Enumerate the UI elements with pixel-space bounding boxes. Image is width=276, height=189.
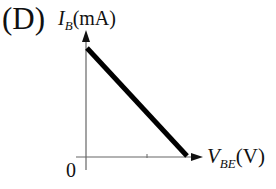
y-axis-arrow-icon (82, 30, 90, 42)
x-axis-arrow-icon (191, 153, 203, 161)
chart-plot (0, 0, 276, 189)
data-line (87, 48, 187, 156)
